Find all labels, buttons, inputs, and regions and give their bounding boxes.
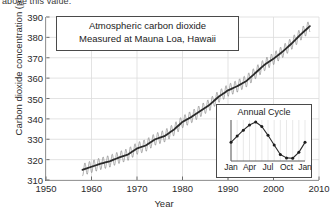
y-axis-tick: 360 [27,73,43,84]
inset-title: Annual Cycle [217,107,311,117]
inset-x-tick: Apr [243,162,256,172]
inset-x-tick: Jan [224,162,238,172]
y-axis-tick: 390 [27,12,43,23]
inset-plot-area [231,120,305,161]
x-axis-label: Year [0,198,328,209]
x-axis-tick: 1990 [217,183,238,194]
y-axis-tick: 370 [27,52,43,63]
x-axis-tick: 1980 [172,183,193,194]
inset-x-tick: Jul [263,162,274,172]
x-axis-tick: 1970 [126,183,147,194]
inset-x-tick: Oct [280,162,293,172]
x-axis-tick: 1960 [81,183,102,194]
chart-subtitle: Measured at Mauna Loa, Hawaii [61,33,234,46]
clipped-caption-bottom [4,212,322,219]
y-axis-tick: 330 [27,134,43,145]
x-axis-tick: 2010 [308,183,329,194]
x-axis-tick: 2000 [263,183,284,194]
y-axis-label: Carbon dioxide concentration (ppmv) [13,0,24,138]
y-axis-tick: 320 [27,154,43,165]
chart-title-box: Atmospheric carbon dioxide Measured at M… [56,16,239,51]
chart-title: Atmospheric carbon dioxide [61,20,234,33]
y-axis-tick: 350 [27,93,43,104]
y-axis-tick: 340 [27,113,43,124]
inset-plot-svg [231,120,305,161]
y-axis-tick: 380 [27,32,43,43]
inset-annual-cycle: Annual Cycle JanAprJulOctJan [216,104,312,178]
inset-x-tick: Jan [298,162,312,172]
x-axis-tick: 1950 [35,183,56,194]
